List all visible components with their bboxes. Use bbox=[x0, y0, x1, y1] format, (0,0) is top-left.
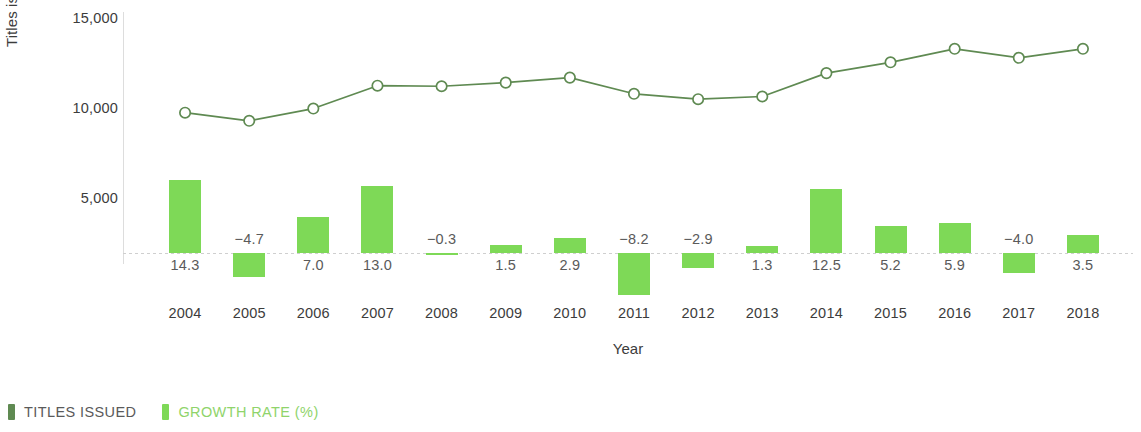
growth-rate-chart: Titles issued 15,00010,0005,000 14.3−4.7… bbox=[0, 0, 1141, 432]
bar bbox=[554, 238, 586, 253]
x-axis-tick: 2013 bbox=[730, 305, 794, 321]
bar-value-label: 13.0 bbox=[345, 257, 409, 273]
plot-area: 14.3−4.77.013.0−0.31.52.9−8.2−2.91.312.5… bbox=[123, 8, 1133, 300]
bar-value-label: 14.3 bbox=[153, 257, 217, 273]
line-marker bbox=[821, 68, 831, 78]
x-axis-tick: 2005 bbox=[217, 305, 281, 321]
bar bbox=[682, 253, 714, 268]
legend-swatch-icon bbox=[8, 404, 15, 420]
bar bbox=[1003, 253, 1035, 273]
bar bbox=[1067, 235, 1099, 253]
line-marker bbox=[1078, 44, 1088, 54]
line-marker bbox=[1014, 53, 1024, 63]
x-axis-tick: 2016 bbox=[923, 305, 987, 321]
x-axis-tick: 2007 bbox=[345, 305, 409, 321]
bar bbox=[618, 253, 650, 295]
x-axis-title: Year bbox=[123, 340, 1133, 357]
bar bbox=[746, 246, 778, 253]
bar bbox=[233, 253, 265, 277]
bar-value-label: 7.0 bbox=[281, 257, 345, 273]
x-axis-tick: 2018 bbox=[1051, 305, 1115, 321]
bar bbox=[939, 223, 971, 253]
bar bbox=[426, 253, 458, 255]
y-axis-tick: 5,000 bbox=[44, 190, 118, 206]
line-marker bbox=[244, 116, 254, 126]
legend-swatch-icon bbox=[162, 404, 169, 420]
x-axis-tick: 2011 bbox=[602, 305, 666, 321]
bar bbox=[810, 189, 842, 253]
x-axis-tick: 2010 bbox=[538, 305, 602, 321]
y-axis-tick-labels: 15,00010,0005,000 bbox=[28, 0, 118, 300]
bar bbox=[875, 226, 907, 253]
x-axis-tick: 2017 bbox=[987, 305, 1051, 321]
legend-item[interactable]: GROWTH RATE (%) bbox=[162, 404, 318, 420]
bar-value-label: 3.5 bbox=[1051, 257, 1115, 273]
bar bbox=[297, 217, 329, 253]
legend-label: GROWTH RATE (%) bbox=[178, 404, 318, 420]
line-marker bbox=[885, 57, 895, 67]
bar-value-label: 1.3 bbox=[730, 257, 794, 273]
line-marker bbox=[308, 103, 318, 113]
line-marker bbox=[757, 91, 767, 101]
bar bbox=[169, 180, 201, 253]
bar-value-label: −4.7 bbox=[217, 231, 281, 247]
x-axis-tick: 2014 bbox=[794, 305, 858, 321]
line-marker bbox=[565, 72, 575, 82]
line-marker bbox=[629, 89, 639, 99]
line-marker bbox=[436, 81, 446, 91]
chart-legend: TITLES ISSUEDGROWTH RATE (%) bbox=[8, 404, 319, 420]
legend-label: TITLES ISSUED bbox=[24, 404, 136, 420]
bar-value-label: −0.3 bbox=[410, 231, 474, 247]
bar-value-label: 5.9 bbox=[923, 257, 987, 273]
line-path bbox=[185, 49, 1083, 121]
x-axis-tick: 2004 bbox=[153, 305, 217, 321]
line-marker bbox=[501, 77, 511, 87]
x-axis-tick: 2015 bbox=[858, 305, 922, 321]
line-marker bbox=[949, 44, 959, 54]
x-axis-tick: 2008 bbox=[410, 305, 474, 321]
bar bbox=[361, 186, 393, 253]
bar-value-label: −4.0 bbox=[987, 231, 1051, 247]
bar-value-label: −2.9 bbox=[666, 231, 730, 247]
line-marker bbox=[180, 108, 190, 118]
x-axis-tick: 2012 bbox=[666, 305, 730, 321]
line-marker bbox=[372, 81, 382, 91]
y-axis-tick: 15,000 bbox=[44, 10, 118, 26]
line-marker bbox=[693, 94, 703, 104]
y-axis-tick: 10,000 bbox=[44, 100, 118, 116]
bar-value-label: 1.5 bbox=[474, 257, 538, 273]
bar-value-label: −8.2 bbox=[602, 231, 666, 247]
x-axis-tick: 2006 bbox=[281, 305, 345, 321]
bar-value-label: 5.2 bbox=[858, 257, 922, 273]
bar bbox=[490, 245, 522, 253]
bar-value-label: 2.9 bbox=[538, 257, 602, 273]
bar-value-label: 12.5 bbox=[794, 257, 858, 273]
legend-item[interactable]: TITLES ISSUED bbox=[8, 404, 136, 420]
x-axis-tick: 2009 bbox=[474, 305, 538, 321]
